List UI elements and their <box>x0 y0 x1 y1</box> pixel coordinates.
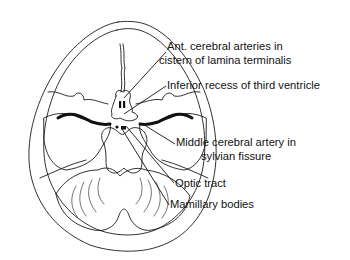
middle-cerebral-artery-right <box>140 114 192 124</box>
middle-cerebral-artery-left <box>58 114 110 124</box>
optic-tract-dot <box>115 125 118 128</box>
label-ant-cerebral-line1: Ant. cerebral arteries in <box>167 40 283 53</box>
label-inferior-recess: Inferior recess of third ventricle <box>167 79 320 92</box>
tentorium <box>40 160 208 178</box>
label-middle-cerebral-line1: Middle cerebral artery in <box>176 136 296 149</box>
leader-mamillary <box>122 129 169 205</box>
leader-middle-cerebral <box>146 126 175 144</box>
ant-cerebral-arteries-2 <box>123 101 125 108</box>
label-ant-cerebral-line2: cistern of lamina terminalis <box>159 54 291 67</box>
brain-axial-diagram <box>0 0 350 260</box>
label-mamillary-bodies: Mamillary bodies <box>170 198 254 211</box>
temporal-lobe-left <box>44 114 110 171</box>
label-optic-tract: Optic tract <box>175 177 226 190</box>
frontal-boundary-left <box>48 92 108 104</box>
interhemispheric-fissure <box>120 44 125 92</box>
ant-cerebral-arteries <box>119 101 121 108</box>
mamillary-bodies <box>121 126 126 130</box>
cerebellar-folia <box>72 178 169 218</box>
frontal-boundary-right <box>136 92 200 104</box>
label-middle-cerebral-line2: sylvian fissure <box>201 150 271 163</box>
